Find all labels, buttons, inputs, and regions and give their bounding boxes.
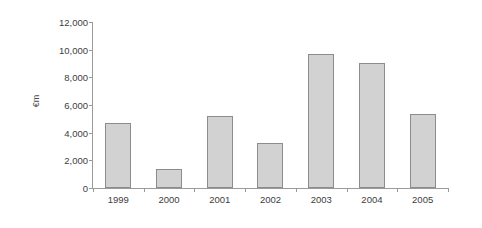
- x-axis-tick-label: 1999: [108, 194, 129, 205]
- x-axis-tick-label: 2001: [209, 194, 230, 205]
- bar: [105, 123, 131, 188]
- bar-slot: [296, 22, 347, 188]
- bar-slot: [93, 22, 144, 188]
- bar: [308, 54, 334, 188]
- bar: [207, 116, 233, 188]
- x-axis-tick-label: 2002: [260, 194, 281, 205]
- y-axis-tick-label: 0: [38, 183, 88, 194]
- bar-slot: [194, 22, 245, 188]
- x-axis-tick-mark: [296, 188, 297, 192]
- x-axis-line: [92, 188, 449, 189]
- x-axis-tick-mark: [144, 188, 145, 192]
- y-axis-tick-label: 6,000: [38, 100, 88, 111]
- y-axis-tick-label: 4,000: [38, 127, 88, 138]
- bar: [359, 63, 385, 188]
- y-axis-tick-label: 2,000: [38, 155, 88, 166]
- x-axis-tick-label: 2000: [158, 194, 179, 205]
- bar: [257, 143, 283, 188]
- x-axis-tick-mark: [245, 188, 246, 192]
- y-axis-tick-label-group: 02,0004,0006,0008,00010,00012,000: [38, 22, 88, 188]
- bar-slot: [347, 22, 398, 188]
- x-axis-tick-label: 2003: [311, 194, 332, 205]
- bar-chart-figure: €m 02,0004,0006,0008,00010,00012,000 199…: [0, 0, 482, 228]
- x-axis-tick-mark: [397, 188, 398, 192]
- bar-slot: [397, 22, 448, 188]
- bar: [156, 169, 182, 188]
- y-axis-tick-label: 12,000: [38, 17, 88, 28]
- x-axis-tick-mark: [448, 188, 449, 192]
- y-axis-tick-label: 8,000: [38, 72, 88, 83]
- bar-slot: [245, 22, 296, 188]
- plot-area: [93, 22, 448, 188]
- x-axis-tick-label: 2004: [361, 194, 382, 205]
- x-axis-tick-mark: [194, 188, 195, 192]
- x-axis-tick-mark: [347, 188, 348, 192]
- y-axis-tick-label: 10,000: [38, 44, 88, 55]
- bar: [410, 114, 436, 188]
- x-axis-tick-label: 2005: [412, 194, 433, 205]
- bar-slot: [144, 22, 195, 188]
- x-axis-tick-mark: [93, 188, 94, 192]
